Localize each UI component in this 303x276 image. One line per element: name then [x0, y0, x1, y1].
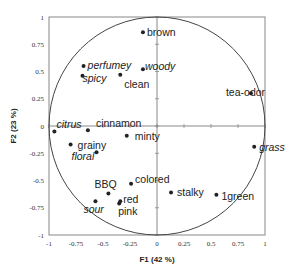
point-marker	[69, 143, 73, 147]
point-label: brown	[147, 26, 176, 38]
x-tick-label: 0.25	[178, 240, 191, 248]
point-label: clean	[124, 78, 149, 90]
y-tick-label: -1	[38, 232, 44, 240]
point-marker	[169, 190, 173, 194]
x-tick-label: -0.5	[97, 240, 109, 248]
point-marker	[86, 128, 90, 132]
point-label: floral	[72, 150, 95, 162]
x-tick-label: 0.75	[232, 240, 245, 248]
data-point-red: red	[118, 193, 138, 205]
x-tick-label: 0.5	[207, 240, 216, 248]
x-tick-label: 1	[263, 240, 267, 248]
pca-correlation-chart: -1-0.75-0.5-0.2500.250.50.751 10.750.50.…	[0, 0, 303, 276]
point-label: stalky	[177, 186, 205, 198]
point-label: grass	[259, 141, 285, 153]
y-tick-label: 1	[41, 14, 45, 22]
data-point-woody: woody	[141, 60, 176, 72]
data-point-citrus: citrus	[52, 118, 82, 133]
point-marker	[106, 192, 110, 196]
point-label: citrus	[56, 118, 82, 130]
point-label: BBQ	[94, 178, 116, 190]
data-point-minty: minty	[125, 130, 161, 142]
point-label: grainy	[78, 139, 107, 151]
y-tick-label: 0.75	[32, 41, 45, 49]
data-point-spicy: spicy	[80, 72, 107, 84]
point-marker	[82, 64, 86, 68]
point-label: woody	[145, 60, 176, 72]
data-point-brown: brown	[141, 26, 176, 38]
y-tick-label: 0	[41, 123, 45, 131]
data-points: brownperfumeywoodyspicycleantea-odorcitr…	[52, 26, 285, 217]
data-point-floral: floral	[72, 150, 99, 162]
data-point-bbq: BBQ	[94, 178, 116, 196]
point-label: red	[123, 193, 138, 205]
point-label: cinnamon	[96, 117, 142, 129]
data-point-stalky: stalky	[169, 186, 205, 198]
y-tick-label: 0.5	[35, 68, 44, 76]
point-label: 1green	[221, 190, 254, 202]
point-marker	[125, 134, 129, 138]
point-marker	[129, 182, 133, 186]
point-label: sour	[83, 203, 104, 215]
point-label: perfumey	[87, 59, 133, 71]
data-point-grass: grass	[252, 141, 285, 153]
point-marker	[141, 30, 145, 34]
x-tick-label: -0.75	[69, 240, 84, 248]
point-marker	[214, 193, 218, 197]
y-tick-label: 0.25	[32, 95, 45, 103]
x-tick-label: -0.25	[123, 240, 138, 248]
data-point-grainy: grainy	[69, 139, 107, 151]
y-tick-label: -0.25	[29, 150, 44, 158]
point-marker	[95, 150, 99, 154]
x-tick-label: 0	[155, 240, 159, 248]
point-marker	[252, 145, 256, 149]
y-tick-label: -0.75	[29, 204, 44, 212]
data-point-1green: 1green	[214, 190, 254, 202]
data-point-cinnamon: cinnamon	[86, 117, 142, 132]
data-point-colored: colored	[129, 173, 170, 186]
data-point-tea-odor: tea-odor	[226, 86, 266, 98]
data-point-sour: sour	[83, 199, 104, 215]
point-label: pink	[118, 205, 138, 217]
x-axis-ticks: -1-0.75-0.5-0.2500.250.50.751	[46, 240, 267, 248]
data-point-perfumey: perfumey	[82, 59, 133, 71]
x-tick-label: -1	[46, 240, 52, 248]
y-axis-ticks: 10.750.50.250-0.25-0.5-0.75-1	[29, 14, 44, 240]
point-label: minty	[135, 130, 161, 142]
x-axis-title: F1 (42 %)	[139, 255, 174, 264]
point-label: colored	[135, 173, 170, 185]
y-tick-label: -0.5	[33, 177, 45, 185]
point-label: spicy	[82, 72, 107, 84]
data-point-clean: clean	[118, 73, 149, 90]
point-marker	[118, 73, 122, 77]
y-axis-title: F2 (23 %)	[9, 108, 18, 143]
point-label: tea-odor	[226, 86, 266, 98]
